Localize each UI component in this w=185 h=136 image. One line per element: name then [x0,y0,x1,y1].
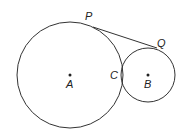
label-B: B [144,78,151,90]
tangent-segment-PQ [93,27,157,48]
label-Q: Q [157,37,166,49]
label-A: A [65,78,73,90]
label-C: C [110,69,118,81]
geometry-diagram: P Q C A B [0,0,185,136]
center-point-A [69,74,72,77]
label-P: P [85,10,93,22]
center-point-B [147,74,150,77]
